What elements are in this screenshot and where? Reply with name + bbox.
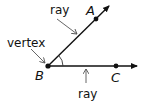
angle-arc — [59, 56, 63, 67]
vertex-pointer — [31, 49, 45, 63]
angle-svg: ray vertex ray A B C — [0, 0, 147, 107]
point-a-label: A — [85, 3, 95, 18]
ray-top-pointer — [57, 19, 77, 34]
point-b-dot — [45, 63, 50, 68]
vertex-label: vertex — [7, 36, 45, 50]
point-c-dot — [114, 64, 119, 69]
ray-top-label: ray — [50, 3, 69, 17]
point-c-label: C — [111, 70, 121, 85]
point-b-label: B — [35, 68, 44, 83]
angle-diagram: ray vertex ray A B C — [0, 0, 147, 107]
ray-bottom-label: ray — [78, 87, 97, 101]
